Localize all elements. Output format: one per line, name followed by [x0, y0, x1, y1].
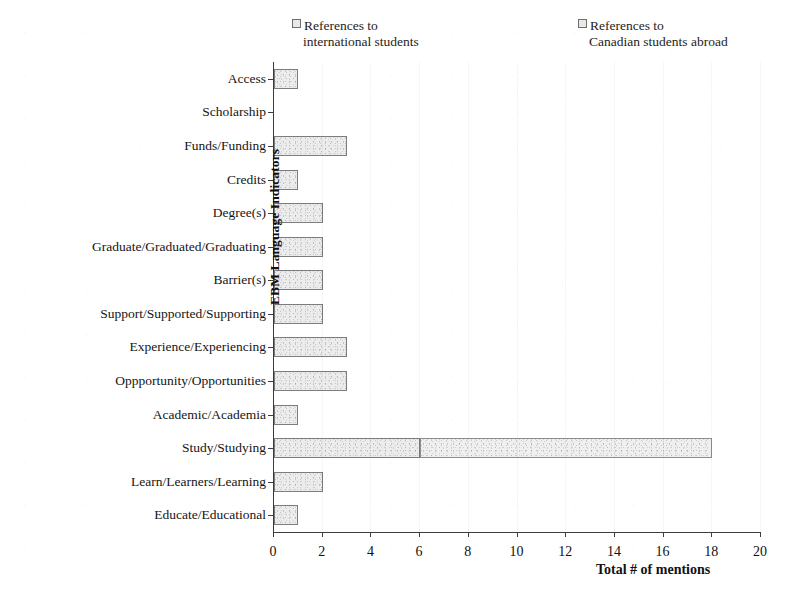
- y-axis-tick: [268, 448, 273, 449]
- bar-segment-series1: [274, 472, 323, 492]
- x-gridline: [468, 62, 469, 532]
- category-label: Learn/Learners/Learning: [0, 475, 266, 489]
- x-gridline: [517, 62, 518, 532]
- category-label: Academic/Academia: [0, 408, 266, 422]
- bar-segment-series1: [274, 371, 347, 391]
- bar-segment-series1: [274, 405, 298, 425]
- y-axis-tick: [268, 515, 273, 516]
- y-axis-tick: [268, 482, 273, 483]
- category-label: Graduate/Graduated/Graduating: [0, 240, 266, 254]
- y-axis-title: EBM Language Indicators: [267, 85, 283, 305]
- chart-legend: References to international students Ref…: [0, 12, 789, 58]
- legend-label-line1: References to: [590, 18, 664, 33]
- y-axis-tick: [268, 314, 273, 315]
- x-axis-tick-label: 14: [594, 544, 634, 560]
- category-label: Study/Studying: [0, 441, 266, 455]
- y-axis-tick: [268, 381, 273, 382]
- x-axis-title: Total # of mentions: [596, 562, 710, 578]
- legend-entry-canadian-students-abroad: References to Canadian students abroad: [578, 18, 728, 50]
- x-axis-tick-label: 10: [497, 544, 537, 560]
- y-axis-tick: [268, 347, 273, 348]
- x-axis-tick-label: 18: [691, 544, 731, 560]
- x-axis-tick-label: 20: [740, 544, 780, 560]
- x-gridline: [614, 62, 615, 532]
- x-axis-tick: [419, 532, 420, 537]
- x-axis-tick-label: 8: [448, 544, 488, 560]
- x-axis-tick: [565, 532, 566, 537]
- bar-segment-series1: [274, 505, 298, 525]
- bar-stack: [274, 505, 298, 525]
- legend-entry-international-students: References to international students: [292, 18, 419, 50]
- legend-label-line1: References to: [304, 18, 378, 33]
- x-axis-tick: [711, 532, 712, 537]
- category-label: Degree(s): [0, 206, 266, 220]
- x-axis-tick-label: 0: [253, 544, 293, 560]
- x-axis-tick-label: 6: [399, 544, 439, 560]
- category-label: Access: [0, 72, 266, 86]
- bar-stack: [274, 472, 323, 492]
- y-axis-tick: [268, 280, 273, 281]
- x-axis-tick-label: 2: [302, 544, 342, 560]
- bar-stack: [274, 337, 347, 357]
- bar-stack: [274, 136, 347, 156]
- bar-stack: [274, 371, 347, 391]
- category-label: Oppportunity/Opportunities: [0, 374, 266, 388]
- category-label: Funds/Funding: [0, 139, 266, 153]
- x-gridline: [322, 62, 323, 532]
- bar-stack: [274, 438, 712, 458]
- x-gridline: [711, 62, 712, 532]
- legend-swatch-icon: [578, 19, 587, 28]
- bar-segment-series1: [274, 136, 347, 156]
- bar-segment-series1: [274, 337, 347, 357]
- x-axis-tick: [517, 532, 518, 537]
- x-axis-tick-label: 16: [643, 544, 683, 560]
- x-axis-tick: [760, 532, 761, 537]
- x-axis-tick: [322, 532, 323, 537]
- x-axis-tick: [614, 532, 615, 537]
- category-label: Barrier(s): [0, 273, 266, 287]
- x-axis-tick-label: 4: [350, 544, 390, 560]
- category-label: Credits: [0, 173, 266, 187]
- category-label: Experience/Experiencing: [0, 340, 266, 354]
- x-axis-tick: [370, 532, 371, 537]
- legend-label-line2: international students: [292, 34, 419, 50]
- y-axis-tick: [268, 415, 273, 416]
- x-axis-tick: [468, 532, 469, 537]
- legend-swatch-icon: [292, 19, 301, 28]
- x-gridline: [370, 62, 371, 532]
- x-gridline: [419, 62, 420, 532]
- x-gridline: [565, 62, 566, 532]
- y-axis-tick: [268, 146, 273, 147]
- category-label: Support/Supported/Supporting: [0, 307, 266, 321]
- x-axis-tick: [663, 532, 664, 537]
- bar-segment-series1: [274, 438, 420, 458]
- chart-plot-area: AccessScholarshipFunds/FundingCreditsDeg…: [273, 62, 760, 532]
- y-axis-tick: [268, 79, 273, 80]
- x-axis-tick-label: 12: [545, 544, 585, 560]
- y-axis-tick: [268, 213, 273, 214]
- x-axis-tick: [273, 532, 274, 537]
- x-gridline: [663, 62, 664, 532]
- bar-segment-series1: [274, 304, 323, 324]
- legend-label-line2: Canadian students abroad: [578, 34, 728, 50]
- category-label: Educate/Educational: [0, 508, 266, 522]
- bar-stack: [274, 405, 298, 425]
- bar-segment-series2: [420, 438, 712, 458]
- bar-stack: [274, 304, 323, 324]
- category-label: Scholarship: [0, 105, 266, 119]
- y-axis-tick: [268, 247, 273, 248]
- y-axis-tick: [268, 112, 273, 113]
- y-axis-tick: [268, 180, 273, 181]
- x-gridline: [760, 62, 761, 532]
